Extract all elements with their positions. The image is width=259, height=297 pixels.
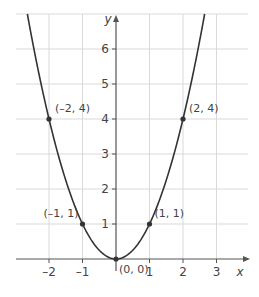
y-axis-arrow-icon (113, 15, 119, 22)
axis-labels: xy (103, 12, 244, 279)
parabola-chart: –2–1123123456 (–2, 4)(–1, 1)(0, 0)(1, 1)… (0, 0, 259, 297)
grid-lines (16, 14, 248, 259)
data-point-label: (0, 0) (119, 263, 149, 276)
data-point-label: (1, 1) (155, 207, 185, 220)
data-point-label: (–2, 4) (55, 102, 90, 115)
x-axis-label: x (235, 265, 244, 279)
y-axis-label: y (103, 12, 112, 26)
y-tick-label: 4 (101, 112, 109, 126)
x-tick-label: –2 (42, 265, 56, 279)
data-point-marker (180, 116, 185, 121)
y-tick-label: 6 (101, 42, 109, 56)
data-point-marker (80, 221, 85, 226)
x-axis-arrow-icon (243, 256, 250, 262)
data-point-label: (2, 4) (189, 102, 219, 115)
x-tick-label: 3 (213, 265, 221, 279)
data-point-label: (–1, 1) (43, 207, 78, 220)
data-point-marker (46, 116, 51, 121)
y-tick-label: 2 (101, 182, 109, 196)
y-tick-label: 1 (101, 217, 109, 231)
y-tick-label: 3 (101, 147, 109, 161)
axes: –2–1123123456 (16, 15, 250, 279)
data-point-marker (113, 256, 118, 261)
y-tick-label: 5 (101, 77, 109, 91)
x-tick-label: –1 (76, 265, 90, 279)
x-tick-label: 2 (179, 265, 187, 279)
data-point-marker (147, 221, 152, 226)
